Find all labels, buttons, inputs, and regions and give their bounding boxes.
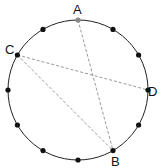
chord-ab	[78, 20, 113, 151]
point-c	[15, 52, 20, 57]
point	[40, 148, 45, 153]
label-a: A	[73, 2, 82, 17]
point-b	[110, 148, 115, 153]
point	[75, 157, 80, 162]
point	[5, 87, 10, 92]
point	[40, 27, 45, 32]
chords	[17, 20, 148, 151]
label-b: B	[111, 154, 120, 168]
chord-cb	[17, 55, 113, 151]
label-c: C	[5, 42, 14, 57]
point	[15, 122, 20, 127]
point	[110, 27, 115, 32]
circle-diagram: A C D B	[0, 0, 161, 168]
chord-cd	[17, 55, 148, 90]
circle	[8, 20, 148, 160]
point	[136, 52, 141, 57]
point-a	[75, 17, 80, 22]
point	[136, 122, 141, 127]
label-d: D	[148, 84, 157, 99]
circle-points	[5, 17, 150, 162]
